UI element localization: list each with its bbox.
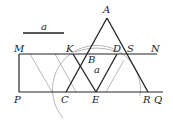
label-K: K (65, 43, 74, 54)
construction-arc-small (75, 48, 118, 52)
label-M: M (13, 43, 25, 54)
geometry-diagram: a A M K D S N B a P C E R Q (0, 0, 173, 131)
label-P: P (13, 94, 21, 105)
label-Q: Q (154, 94, 162, 105)
label-C: C (61, 94, 69, 105)
triangle-ACR (66, 18, 148, 92)
label-E: E (91, 94, 100, 105)
label-N: N (150, 43, 161, 54)
label-S: S (127, 43, 134, 54)
label-R: R (142, 94, 151, 105)
label-segment-a: a (41, 21, 47, 32)
label-A: A (102, 4, 110, 15)
label-D: D (112, 43, 121, 54)
construction-arc-large (52, 45, 140, 118)
label-rhombus-a: a (94, 64, 100, 75)
